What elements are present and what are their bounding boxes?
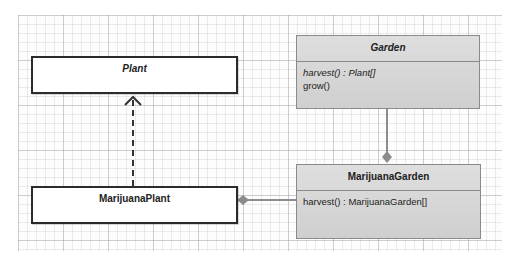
operation-harvest: harvest() : MarijuanaGarden[] [303,195,474,208]
class-marijuana-plant[interactable]: MarijuanaPlant [31,186,238,224]
class-plant[interactable]: Plant [31,56,238,94]
diamond-icon [382,151,392,163]
diamond-icon [237,195,249,205]
class-garden[interactable]: Garden harvest() : Plant[] grow() [296,35,480,109]
operation-grow: grow() [303,79,473,92]
class-name: MarijuanaPlant [33,188,236,214]
class-name: MarijuanaGarden [297,165,480,191]
class-name: Plant [33,58,236,84]
operations-compartment: harvest() : MarijuanaGarden[] [297,191,480,212]
class-marijuana-garden[interactable]: MarijuanaGarden harvest() : MarijuanaGar… [296,164,481,239]
operation-harvest: harvest() : Plant[] [303,66,473,79]
operations-compartment: harvest() : Plant[] grow() [297,62,479,96]
class-name: Garden [297,36,479,62]
